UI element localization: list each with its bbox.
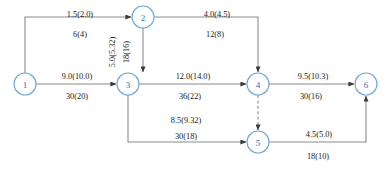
edge-4-to-6-lower-label: 30(16) — [300, 92, 322, 101]
node-5-label: 5 — [256, 138, 261, 148]
edge-3-to-5-lower-label: 30(18) — [175, 132, 197, 141]
edge-2-to-4 — [154, 17, 258, 72]
edge-3-to-4-upper-label: 12.0(14.0) — [176, 72, 211, 81]
node-2-label: 2 — [141, 13, 146, 23]
edge-3-to-4-lower-label: 36(22) — [179, 92, 201, 101]
edge-2-to-4-lower-label: 12(8) — [206, 30, 224, 39]
edge-5-to-6-lower-label: 18(10) — [307, 152, 329, 161]
edge-1-to-3-lower-label: 30(20) — [66, 92, 88, 101]
edge-2-to-3-upper-label: 5.0(5.32) — [108, 37, 117, 68]
node-1-label: 1 — [23, 80, 28, 90]
edge-3-to-5-upper-label: 8.5(9.32) — [171, 116, 202, 125]
edge-1-to-3-upper-label: 9.0(10.0) — [62, 72, 93, 81]
edge-1-to-2-lower-label: 6(4) — [73, 30, 87, 39]
edge-2-to-3-lower-label: 18(16) — [122, 41, 131, 63]
diagram-canvas: 1 2 3 4 5 6 1.5(2.0) 6(4) 4.0(4.5) 12(8)… — [0, 0, 391, 173]
edge-2-to-4-upper-label: 4.0(4.5) — [204, 10, 231, 19]
edge-1-to-2-upper-label: 1.5(2.0) — [67, 10, 94, 19]
node-3-label: 3 — [126, 80, 131, 90]
edge-5-to-6-upper-label: 4.5(5.0) — [306, 130, 333, 139]
node-4-label: 4 — [256, 80, 261, 90]
node-6-label: 6 — [364, 80, 369, 90]
network-flow-diagram: 1 2 3 4 5 6 1.5(2.0) 6(4) 4.0(4.5) 12(8)… — [0, 0, 391, 173]
edge-4-to-6-upper-label: 9.5(10.3) — [298, 72, 329, 81]
